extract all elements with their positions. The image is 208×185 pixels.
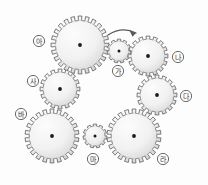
gear-label-마: 마 [87,153,98,164]
gear-hub-다 [155,93,159,97]
gear-label-가: 가 [112,65,123,76]
gear-hub-가 [118,50,121,53]
gear-label-text-라: 라 [160,155,167,164]
gear-label-text-사: 사 [30,77,37,86]
gear-label-text-가: 가 [115,67,122,76]
gear-hub-라 [132,134,136,138]
gear-label-다: 다 [180,90,191,101]
gear-아[interactable] [51,16,109,74]
gear-hub-나 [146,54,150,58]
gear-label-text-다: 다 [183,92,190,101]
gear-마[interactable] [83,124,107,148]
gear-라[interactable] [107,109,161,163]
gear-label-text-바: 바 [18,110,25,119]
gear-label-아: 아 [33,35,44,46]
gear-label-라: 라 [157,153,168,164]
gear-label-text-마: 마 [90,155,97,164]
gear-label-text-아: 아 [36,37,43,46]
gear-hub-바 [50,134,54,138]
gear-hub-아 [78,43,82,47]
gear-사[interactable] [40,69,80,109]
gears-layer [25,16,177,163]
gear-label-바: 바 [15,108,26,119]
gear-hub-마 [94,135,97,138]
gear-label-나: 나 [172,51,183,62]
gear-label-text-나: 나 [175,53,182,62]
gear-train-illustration: 아가나사다바마라 [0,0,208,185]
gear-나[interactable] [128,36,168,76]
gear-다[interactable] [137,75,177,115]
gear-바[interactable] [25,109,79,163]
gear-hub-사 [58,87,62,91]
gear-diagram-canvas: 아가나사다바마라 [0,0,208,185]
gear-가[interactable] [107,39,131,63]
rotation-arrow-group [108,30,136,37]
gear-label-사: 사 [27,75,38,86]
